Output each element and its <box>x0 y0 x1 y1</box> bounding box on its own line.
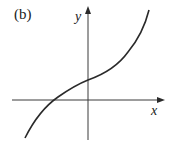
y-axis-arrow-icon <box>85 6 91 14</box>
plot-canvas <box>0 0 176 148</box>
x-axis-arrow-icon <box>157 97 165 103</box>
graph-figure: (b) y x <box>0 0 176 148</box>
x-axis-label: x <box>151 104 157 118</box>
panel-label: (b) <box>14 7 32 22</box>
y-axis-label: y <box>75 10 81 24</box>
function-curve <box>25 10 149 138</box>
